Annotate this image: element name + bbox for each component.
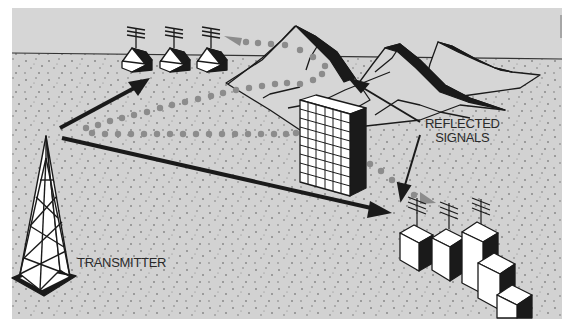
reflected-signals-label: REFLECTED SIGNALS [425,117,500,145]
office-building [300,95,366,196]
transmitter-label: TRANSMITTER [77,256,166,270]
reflected-label-line-2: SIGNALS [425,131,500,145]
multipath-diagram [0,0,569,329]
reflected-label-line-1: REFLECTED [425,117,500,131]
